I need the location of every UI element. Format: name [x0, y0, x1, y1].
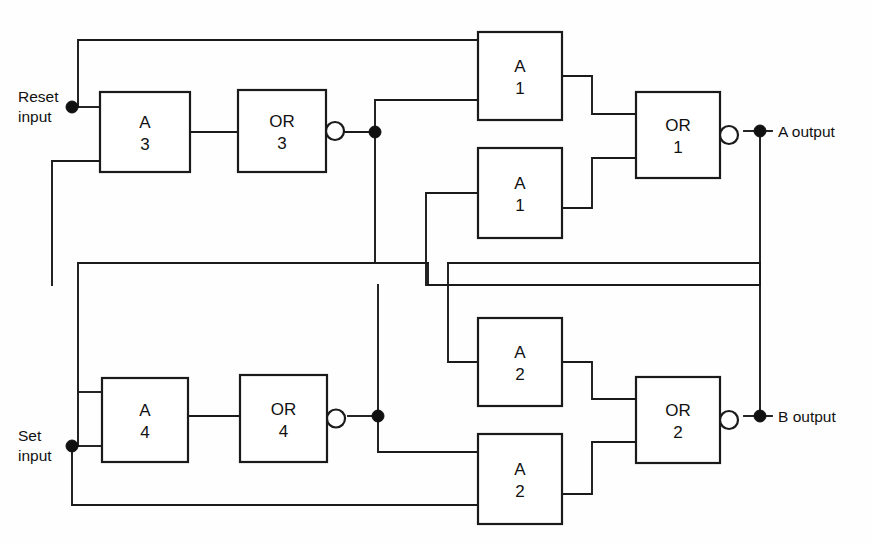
gate-label-line1: OR: [271, 400, 297, 419]
gate-label-line2: 2: [673, 423, 682, 442]
gate-label-line1: A: [514, 57, 526, 76]
gate-label-line1: A: [514, 174, 526, 193]
gate-label-line1: OR: [665, 116, 691, 135]
gate-or2: OR2: [636, 377, 738, 463]
reset-input-label-line1: Reset: [18, 88, 59, 105]
inversion-bubble-icon: [327, 410, 345, 428]
gate-body: [100, 92, 190, 172]
reset-input-label-line2: input: [18, 108, 52, 125]
reset-input-node: [66, 101, 78, 113]
b-output-label: B output: [778, 408, 836, 425]
gate-or1: OR1: [636, 92, 738, 178]
gate-or4: OR4: [240, 375, 345, 462]
gate-label-line2: 1: [515, 79, 524, 98]
gate-label-line1: OR: [665, 401, 691, 420]
or3-output-node: [369, 126, 381, 138]
gate-a4: A4: [102, 378, 188, 462]
inversion-bubble-icon: [720, 411, 738, 429]
gate-layer: A3OR3A1A1OR1A4OR4A2A2OR2: [100, 32, 738, 524]
gate-label-line2: 1: [515, 196, 524, 215]
or3-node-up-to-a1a-in2: [375, 100, 478, 132]
a3-lower-in-from-bus: [52, 161, 100, 285]
gate-body: [478, 434, 562, 524]
a-output-label: A output: [778, 123, 836, 140]
a2b-out-to-or2-in2: [562, 442, 636, 494]
gate-label-line1: A: [514, 460, 526, 479]
diagram-canvas: A3OR3A1A1OR1A4OR4A2A2OR2 Reset input Set…: [0, 0, 872, 544]
set-input-label-line1: Set: [18, 427, 42, 444]
a-output-node: [754, 125, 766, 137]
gate-a1b: A1: [478, 148, 562, 238]
gate-a2b: A2: [478, 434, 562, 524]
set-input-label-line2: input: [18, 447, 52, 464]
a1a-out-to-or1-in1: [562, 76, 636, 114]
gate-label-line2: 3: [140, 135, 149, 154]
gate-body: [636, 377, 720, 463]
inversion-bubble-icon: [326, 122, 344, 140]
gate-a3: A3: [100, 92, 190, 172]
gate-body: [636, 92, 720, 178]
gate-label-line1: OR: [269, 112, 295, 131]
a1b-in-from-bus: [426, 193, 478, 285]
gate-body: [478, 32, 562, 120]
gate-body: [478, 318, 562, 406]
b-output-node: [754, 410, 766, 422]
a1b-out-to-or1-in2: [562, 158, 636, 208]
gate-label-line2: 3: [277, 134, 286, 153]
gate-label-line1: A: [139, 113, 151, 132]
set-input-node: [66, 440, 78, 452]
a2a-in-from-bus: [448, 263, 478, 362]
gate-label-line2: 4: [279, 422, 288, 441]
gate-label-line1: A: [139, 401, 151, 420]
or4-output-node: [372, 410, 384, 422]
gate-label-line1: A: [514, 343, 526, 362]
or4-node-down-to-a2b: [378, 416, 478, 452]
gate-label-line2: 2: [515, 365, 524, 384]
gate-or3: OR3: [238, 90, 344, 172]
gate-body: [478, 148, 562, 238]
gate-body: [102, 378, 188, 462]
gate-label-line2: 1: [673, 138, 682, 157]
gate-label-line2: 2: [515, 482, 524, 501]
gate-a2a: A2: [478, 318, 562, 406]
gate-a1a: A1: [478, 32, 562, 120]
gate-body: [240, 375, 327, 462]
gate-body: [238, 90, 326, 172]
a2a-out-to-or2-in1: [562, 362, 636, 399]
gate-label-line2: 4: [140, 423, 149, 442]
inversion-bubble-icon: [720, 126, 738, 144]
logic-diagram-svg: A3OR3A1A1OR1A4OR4A2A2OR2 Reset input Set…: [0, 0, 872, 544]
